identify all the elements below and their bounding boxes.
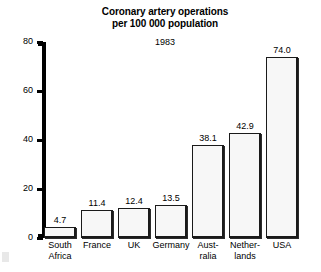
bar-group: 38.1	[192, 42, 224, 238]
bar-chart: Coronary artery operations per 100 000 p…	[0, 0, 321, 272]
bar-value-label: 74.0	[258, 45, 306, 55]
category-label-line: USA	[260, 240, 304, 251]
category-label-line: lands	[223, 251, 267, 262]
y-axis-tick	[37, 90, 43, 93]
bar-value-label: 38.1	[184, 133, 232, 143]
bar[interactable]	[192, 145, 224, 238]
bar-group: 74.0	[266, 42, 298, 238]
category-label: USA	[260, 240, 304, 251]
category-label-line: Africa	[38, 251, 82, 262]
y-axis-tick-label: 60	[3, 86, 33, 95]
y-axis-tick-label: 80	[3, 37, 33, 46]
bar[interactable]	[118, 208, 150, 238]
bar-group: 4.7	[44, 42, 76, 238]
y-axis-tick	[37, 41, 43, 44]
bar[interactable]	[229, 133, 261, 238]
y-axis-tick-label: 20	[3, 184, 33, 193]
chart-title: Coronary artery operations per 100 000 p…	[60, 6, 270, 30]
corner-artifact	[2, 252, 9, 262]
bar[interactable]	[155, 205, 187, 238]
bar-value-label: 4.7	[36, 215, 84, 225]
bar-group: 12.4	[118, 42, 150, 238]
bar[interactable]	[81, 210, 113, 238]
chart-title-line-1: Coronary artery operations	[60, 6, 270, 18]
category-axis-labels: SouthAfricaFranceUKGermanyAust-raliaNeth…	[44, 240, 316, 270]
bar-value-label: 42.9	[221, 121, 269, 131]
y-axis-tick	[37, 139, 43, 142]
bar-group: 11.4	[81, 42, 113, 238]
plot-area: 4.711.412.413.538.142.974.0	[44, 42, 316, 238]
y-axis-tick	[37, 188, 43, 191]
y-axis-tick-label: 40	[3, 135, 33, 144]
bar-group: 13.5	[155, 42, 187, 238]
bar-group: 42.9	[229, 42, 261, 238]
bar[interactable]	[44, 227, 76, 239]
bar[interactable]	[266, 57, 298, 238]
chart-title-line-2: per 100 000 population	[60, 18, 270, 30]
y-axis-tick-label: 0	[3, 233, 33, 242]
bar-value-label: 13.5	[147, 193, 195, 203]
